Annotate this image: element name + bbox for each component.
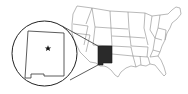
us-locator-map: [0, 0, 188, 94]
inset-magnifier: [12, 21, 77, 86]
us-states: [72, 6, 181, 77]
new-mexico-outline: [25, 31, 64, 78]
new-mexico-highlight: [98, 46, 112, 65]
